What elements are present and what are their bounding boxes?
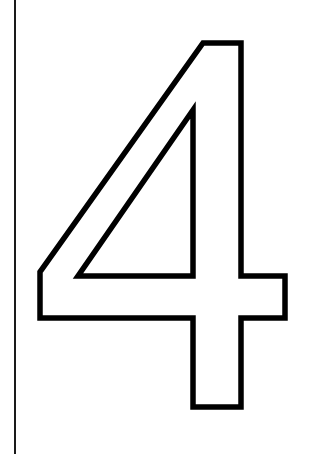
worksheet-page [0,0,319,454]
number-four-illustration [0,0,319,454]
